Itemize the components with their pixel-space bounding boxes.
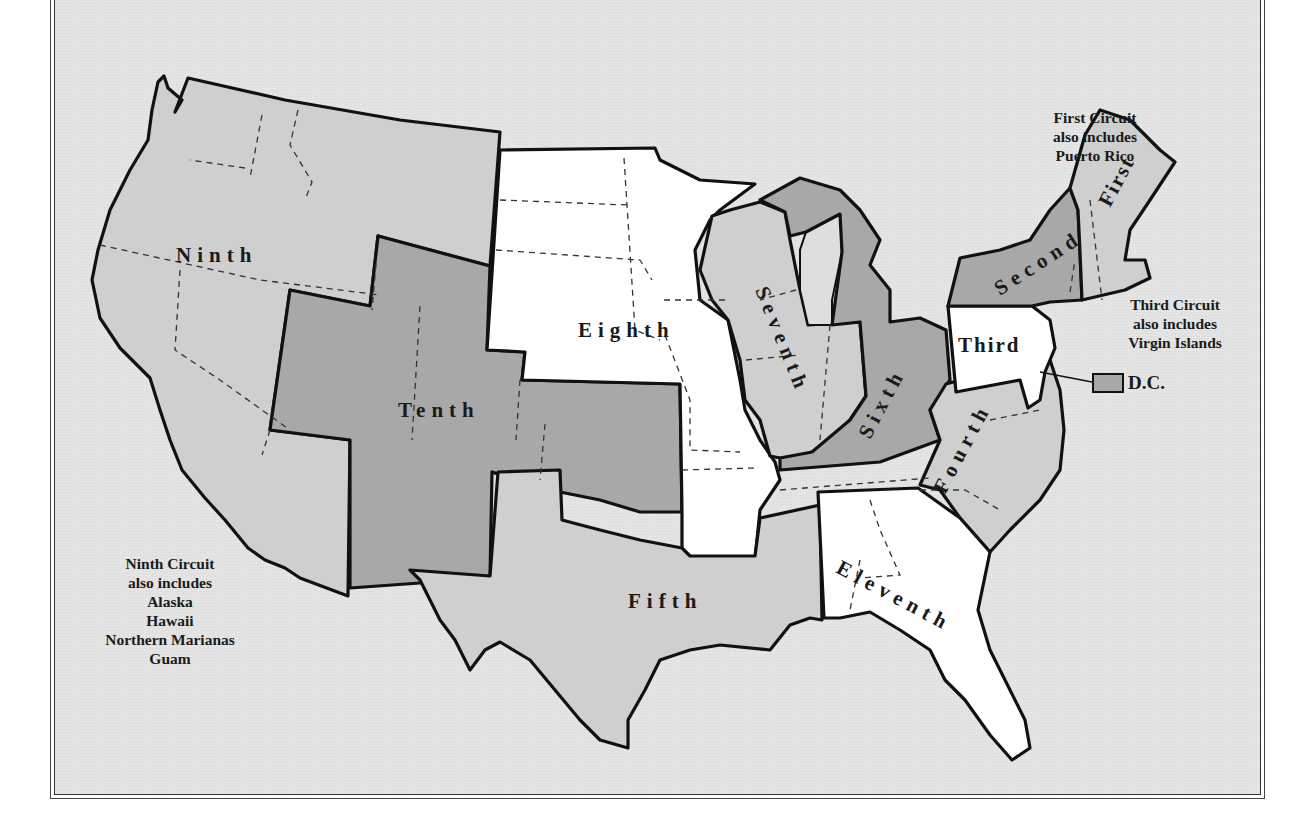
note-line: Northern Marianas <box>80 630 260 649</box>
ninth-circuit-note: Ninth Circuit also includes Alaska Hawai… <box>80 554 260 668</box>
label-tenth: Tenth <box>398 398 480 422</box>
note-line: Virgin Islands <box>1100 333 1250 352</box>
note-line: also includes <box>1100 314 1250 333</box>
label-third: Third <box>958 333 1021 357</box>
dc-label: D.C. <box>1128 372 1165 394</box>
dc-legend: D.C. <box>1092 372 1165 394</box>
note-line: Hawaii <box>80 611 260 630</box>
label-ninth: Ninth <box>176 243 257 267</box>
note-line: First Circuit <box>1020 108 1170 127</box>
dc-swatch <box>1092 373 1124 393</box>
note-line: Puerto Rico <box>1020 146 1170 165</box>
note-line: Third Circuit <box>1100 295 1250 314</box>
note-line: Guam <box>80 649 260 668</box>
label-eighth: Eighth <box>578 318 675 342</box>
note-line: also includes <box>80 573 260 592</box>
note-line: Alaska <box>80 592 260 611</box>
note-line: also includes <box>1020 127 1170 146</box>
third-circuit-note: Third Circuit also includes Virgin Islan… <box>1100 295 1250 352</box>
note-line: Ninth Circuit <box>80 554 260 573</box>
first-circuit-note: First Circuit also includes Puerto Rico <box>1020 108 1170 165</box>
label-fifth: Fifth <box>628 589 702 613</box>
